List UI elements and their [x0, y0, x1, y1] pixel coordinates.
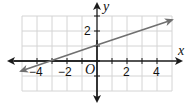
coordinate-plane: −4 −2 2 4 2 O x y [0, 0, 190, 105]
data-line [97, 20, 172, 45]
x-tick-label-neg4: −4 [29, 65, 43, 79]
x-tick-label-neg2: −2 [58, 65, 72, 79]
y-tick-label-2: 2 [84, 24, 91, 38]
origin-label: O [85, 62, 95, 77]
x-tick-label-2: 2 [123, 65, 130, 79]
x-tick-label-4: 4 [153, 65, 160, 79]
x-axis-label: x [177, 43, 185, 58]
y-axis-label: y [101, 0, 110, 14]
